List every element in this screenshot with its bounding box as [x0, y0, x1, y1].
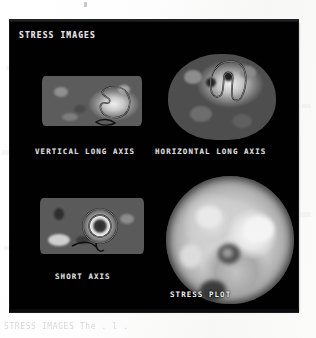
paper-speck — [2, 150, 10, 155]
myocardial-contour-overlay — [160, 44, 284, 148]
vertical-long-axis-label: VERTICAL LONG AXIS — [35, 147, 135, 156]
myocardial-contour-overlay — [40, 67, 144, 135]
polar-map-rim — [166, 176, 294, 304]
stress-images-panel: STRESS IMAGES — [10, 22, 298, 311]
pencil-tick-mark — [84, 2, 87, 7]
scanned-page: STRESS IMAGES — [0, 0, 316, 338]
scanned-caption-text: STRESS IMAGES The . l . — [4, 322, 312, 334]
page-title: STRESS IMAGES — [19, 31, 96, 40]
short-axis-label: SHORT AXIS — [55, 272, 111, 281]
panel-bottom-rule — [9, 309, 299, 313]
short-axis-image — [38, 190, 148, 266]
vertical-long-axis-image — [40, 67, 144, 135]
myocardial-contour-overlay — [38, 190, 148, 266]
horizontal-long-axis-label: HORIZONTAL LONG AXIS — [155, 147, 266, 156]
stress-plot-label: STRESS PLOT — [170, 290, 231, 299]
horizontal-long-axis-image — [160, 44, 284, 148]
paper-speck — [300, 212, 311, 217]
paper-speck — [302, 104, 311, 108]
